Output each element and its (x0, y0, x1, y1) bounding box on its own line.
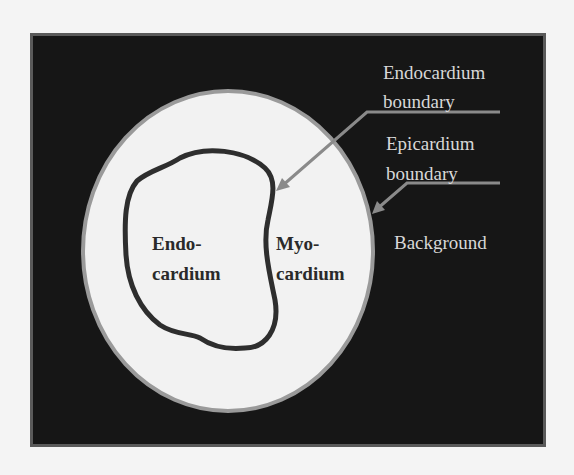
endocardium-label-line1: Endo- (152, 234, 202, 253)
endocardium-label-line2: cardium (152, 264, 221, 283)
background-label: Background (394, 233, 487, 252)
epicardium-boundary-arrow (372, 183, 500, 214)
epicardium-boundary-label-line1: Epicardium (386, 134, 475, 153)
myocardium-label-line1: Myo- (276, 234, 319, 253)
myocardium-label-line2: cardium (276, 264, 345, 283)
endocardium-boundary-label-line1: Endocardium (383, 63, 485, 82)
endocardium-boundary-label-line2: boundary (383, 92, 455, 111)
epicardium-boundary-label-line2: boundary (386, 164, 458, 183)
